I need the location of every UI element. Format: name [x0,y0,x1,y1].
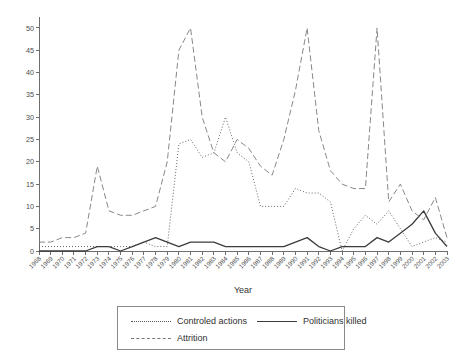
legend-label-attrition: Attrition [177,333,208,343]
y-axis-tick-label: 50 [26,24,34,33]
y-axis-tick-label: 40 [26,68,34,77]
series-line-politicians-killed [39,211,447,251]
series-line-attrition [39,28,447,242]
y-axis-tick-label: 25 [26,135,34,144]
series-line-controled-actions [39,117,447,251]
legend-item-controled-actions: Controled actions [131,316,247,326]
x-axis-title: Year [234,285,252,295]
legend-row-1: Controled actions Politicians killed [131,316,377,326]
y-axis-tick-label: 15 [26,180,34,189]
x-axis-tick-label: 2003 [435,254,450,269]
chart-figure: 0510152025303540455019681969197019711972… [0,0,462,359]
plot-area: 0510152025303540455019681969197019711972… [0,0,462,300]
legend-item-attrition: Attrition [131,333,208,343]
y-axis-tick-label: 0 [30,247,34,256]
y-axis-tick-label: 10 [26,202,34,211]
line-chart-svg: 0510152025303540455019681969197019711972… [0,0,462,300]
legend-label-politicians-killed: Politicians killed [303,316,367,326]
y-axis-tick-label: 5 [30,224,34,233]
legend-key-solid-icon [257,321,297,322]
legend-label-controled-actions: Controled actions [177,316,247,326]
y-axis-tick-label: 30 [26,113,34,122]
y-axis-tick-label: 20 [26,157,34,166]
y-axis-tick-label: 45 [26,46,34,55]
chart-legend: Controled actions Politicians killed Att… [117,306,345,350]
legend-row-2: Attrition [131,333,218,343]
legend-item-politicians-killed: Politicians killed [257,316,367,326]
legend-key-dashed-icon [131,338,171,339]
y-axis-tick-label: 35 [26,90,34,99]
legend-key-dotted-icon [131,321,171,322]
